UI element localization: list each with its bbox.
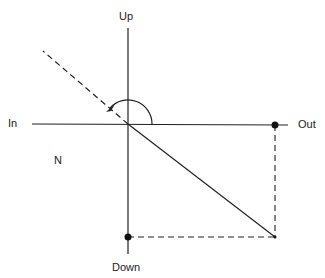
label-in: In [8, 117, 17, 129]
resultant-vector [128, 124, 275, 237]
dashed-extension [43, 51, 128, 124]
axis-diagram [0, 0, 325, 278]
label-out: Out [298, 118, 316, 130]
label-n: N [54, 154, 62, 166]
horizontal-axis [32, 124, 288, 125]
label-down: Down [112, 261, 140, 273]
out-point [272, 122, 279, 129]
down-point [125, 234, 132, 241]
label-up: Up [119, 10, 133, 22]
endpoint [274, 236, 277, 239]
rotation-arc-arrow [110, 100, 152, 124]
